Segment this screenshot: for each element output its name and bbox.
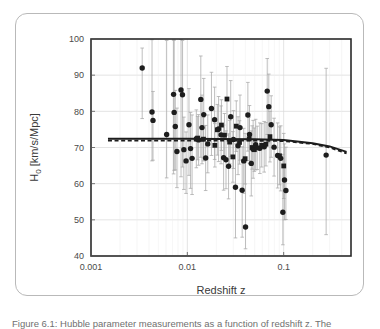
- y-tick-label: 60: [74, 179, 84, 189]
- data-point-circle: [171, 92, 176, 97]
- data-point-square: [219, 123, 224, 128]
- data-point-square: [259, 143, 264, 148]
- data-point-circle: [188, 146, 193, 151]
- data-point-circle: [164, 132, 169, 137]
- figure-caption: Figure 6.1: Hubble parameter measurement…: [12, 318, 372, 329]
- y-axis-title: H0 [km/s/Mpc]: [28, 113, 43, 182]
- data-point-square: [201, 137, 206, 142]
- data-point-square: [268, 134, 273, 139]
- data-point-circle: [249, 161, 254, 166]
- data-point-square: [212, 143, 217, 148]
- data-point-circle: [205, 141, 210, 146]
- data-point-circle: [271, 144, 276, 149]
- data-point-square: [215, 127, 220, 132]
- data-point-circle: [280, 210, 285, 215]
- y-tick-label: 40: [74, 251, 84, 261]
- data-point-circle: [268, 122, 273, 127]
- data-point-square: [247, 136, 252, 141]
- data-point-circle: [173, 124, 178, 129]
- data-point-circle: [149, 109, 154, 114]
- data-point-circle: [265, 88, 270, 93]
- data-point-circle: [174, 149, 179, 154]
- data-point-circle: [223, 157, 228, 162]
- data-point-circle: [247, 132, 252, 137]
- data-point-circle: [233, 185, 238, 190]
- data-point-circle: [186, 122, 191, 127]
- x-tick-label: 0.01: [179, 262, 197, 272]
- data-point-circle: [239, 187, 244, 192]
- data-point-circle: [171, 110, 176, 115]
- tick-label-layer: 4050607080901000.0010.010.1: [69, 34, 290, 272]
- data-point-circle: [139, 65, 144, 70]
- figure-card: 4050607080901000.0010.010.1 Redshift zH0…: [15, 13, 364, 296]
- data-point-circle: [203, 155, 208, 160]
- data-point-circle: [226, 164, 231, 169]
- x-tick-label: 0.001: [80, 262, 103, 272]
- hubble-diagram-chart: 4050607080901000.0010.010.1 Redshift zH0…: [16, 14, 365, 297]
- data-point-square: [264, 142, 269, 147]
- data-point-circle: [199, 125, 204, 130]
- y-tick-label: 70: [74, 143, 84, 153]
- data-point-circle: [266, 104, 271, 109]
- data-point-square: [230, 155, 235, 160]
- data-point-square: [227, 140, 232, 145]
- data-point-square: [195, 136, 200, 141]
- data-point-circle: [189, 156, 194, 161]
- data-point-circle: [283, 188, 288, 193]
- x-tick-label: 0.1: [277, 262, 290, 272]
- errorbar-layer: [140, 39, 328, 248]
- y-tick-label: 90: [74, 70, 84, 80]
- data-point-circle: [180, 92, 185, 97]
- data-point-circle: [243, 224, 248, 229]
- data-point-square: [277, 153, 282, 158]
- data-point-square: [243, 156, 248, 161]
- data-point-square: [255, 145, 260, 150]
- data-point-circle: [245, 112, 250, 117]
- data-point-square: [225, 97, 230, 102]
- data-point-circle: [212, 117, 217, 122]
- data-point-square: [281, 164, 286, 169]
- data-point-square: [234, 124, 239, 129]
- data-point-square: [237, 140, 242, 145]
- data-point-circle: [183, 158, 188, 163]
- data-point-circle: [178, 87, 183, 92]
- data-point-circle: [201, 112, 206, 117]
- data-point-circle: [150, 118, 155, 123]
- data-point-circle: [209, 106, 214, 111]
- data-point-circle: [228, 114, 233, 119]
- y-tick-label: 50: [74, 215, 84, 225]
- data-point-circle: [181, 147, 186, 152]
- data-point-circle: [323, 152, 328, 157]
- data-point-square: [222, 133, 227, 138]
- x-axis-title: Redshift z: [197, 284, 246, 296]
- data-point-circle: [198, 97, 203, 102]
- data-point-circle: [282, 177, 287, 182]
- y-tick-label: 80: [74, 107, 84, 117]
- y-tick-label: 100: [69, 34, 84, 44]
